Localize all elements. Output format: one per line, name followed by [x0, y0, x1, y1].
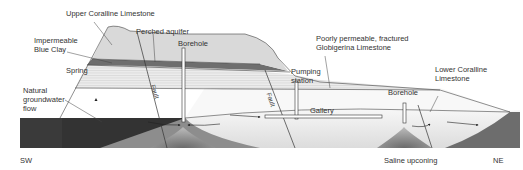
label-gallery: Gallery: [310, 106, 334, 115]
borehole-2-shaft: [403, 103, 406, 123]
label-lower-coralline-2: Limestone: [435, 74, 470, 83]
label-natural-flow-2: groundwater: [23, 95, 65, 104]
label-blue-clay-2: Blue Clay: [34, 45, 66, 54]
gallery-tunnel: [265, 115, 382, 118]
label-perched-aquifer: Perched aquifer: [136, 27, 189, 36]
label-natural-flow-1: Natural: [23, 86, 47, 95]
label-lower-coralline-1: Lower Coralline: [435, 65, 487, 74]
label-upper-coralline: Upper Coralline Limestone: [66, 9, 155, 18]
label-blue-clay-1: Impermeable: [34, 36, 78, 45]
label-borehole-1: Borehole: [178, 39, 208, 48]
cross-section-diagram: [0, 0, 523, 170]
label-natural-flow-3: flow: [23, 104, 36, 113]
label-spring: Spring: [66, 66, 88, 75]
label-saline-upconing: Saline upconing: [384, 156, 437, 165]
borehole-1-shaft: [182, 48, 185, 122]
label-pumping-2: station: [291, 76, 313, 85]
label-borehole-2: Borehole: [388, 88, 418, 97]
sea-left: [20, 118, 62, 148]
label-globigerina-1: Poorly permeable, fractured: [316, 34, 409, 43]
label-sw: SW: [20, 156, 32, 165]
label-ne: NE: [493, 156, 503, 165]
pumping-station-shaft: [295, 81, 298, 119]
label-globigerina-2: Globigerina Limestone: [316, 43, 391, 52]
label-pumping-1: Pumping: [291, 67, 321, 76]
